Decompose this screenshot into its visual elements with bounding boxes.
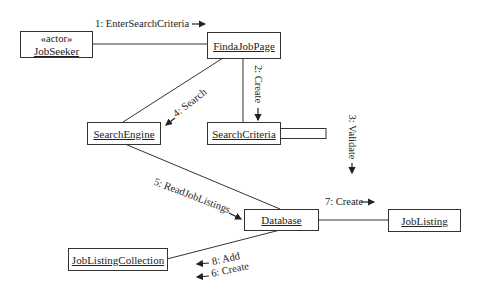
object-database[interactable]: Database	[244, 209, 319, 231]
arrow-m8	[197, 263, 209, 264]
actor-stereotype: «actor»	[41, 33, 73, 45]
object-name: FindaJobPage	[213, 40, 275, 52]
searchcriteria-self-link	[280, 129, 326, 139]
object-name: JobListingCollection	[72, 254, 164, 266]
arrow-m4	[166, 118, 175, 125]
message-label-1: 1: EnterSearchCriteria	[95, 18, 189, 30]
object-name: SearchCriteria	[212, 128, 276, 140]
object-searchcriteria[interactable]: SearchCriteria	[207, 122, 281, 145]
object-name: SearchEngine	[93, 128, 154, 140]
message-label-7: 7: Create	[325, 196, 363, 208]
object-jobseeker[interactable]: «actor» JobSeeker	[20, 31, 93, 58]
object-name: JobListing	[401, 215, 447, 227]
object-name: JobSeeker	[34, 45, 79, 57]
message-label-2: 2: Create	[252, 65, 264, 103]
arrow-m6	[197, 276, 209, 277]
object-joblisting[interactable]: JobListing	[388, 209, 461, 232]
object-findajobpage[interactable]: FindaJobPage	[207, 32, 281, 59]
object-name: Database	[261, 214, 301, 226]
object-joblistingcollection[interactable]: JobListingCollection	[68, 248, 168, 271]
arrow-m5	[229, 213, 241, 219]
message-label-3: 3: Validate	[346, 114, 358, 159]
object-searchengine[interactable]: SearchEngine	[87, 122, 161, 145]
